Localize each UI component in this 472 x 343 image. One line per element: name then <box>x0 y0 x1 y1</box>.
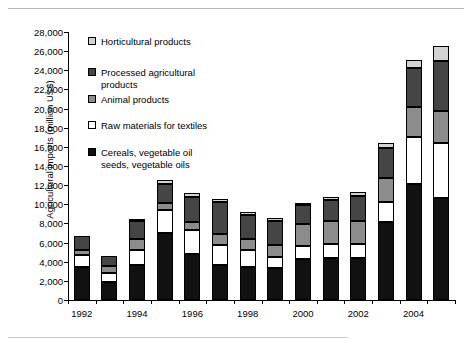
y-tick-mark <box>64 281 68 282</box>
bar-segment <box>323 244 339 258</box>
y-tick-mark <box>64 89 68 90</box>
x-tick-mark <box>206 300 207 304</box>
y-tick-mark <box>64 204 68 205</box>
x-tick-mark <box>234 300 235 304</box>
legend-label: Processed agricultural products <box>101 67 195 90</box>
bar-segment <box>129 239 145 250</box>
bar-segment <box>433 111 449 144</box>
bar-segment <box>378 222 394 300</box>
x-tick-label: 2002 <box>348 308 369 319</box>
bar-segment <box>406 60 422 69</box>
bar-segment <box>323 200 339 221</box>
x-tick-label: 2000 <box>292 308 313 319</box>
bar-segment <box>295 224 311 246</box>
legend-item[interactable]: Horticultural products <box>88 36 191 48</box>
bar-segment <box>378 202 394 221</box>
bar-segment <box>267 257 283 268</box>
legend-item[interactable]: Cereals, vegetable oil seeds, vegetable … <box>88 147 192 170</box>
bar-segment <box>101 273 117 282</box>
bar-2003 <box>378 143 394 300</box>
bar-segment <box>129 221 145 239</box>
bar-segment <box>240 215 256 239</box>
bar-2002 <box>350 192 366 300</box>
bar-1997 <box>212 199 228 300</box>
bar-segment <box>267 268 283 300</box>
bar-segment <box>323 221 339 244</box>
legend-label: Raw materials for textiles <box>101 120 207 132</box>
legend-swatch-icon <box>88 68 96 76</box>
y-tick-mark <box>64 185 68 186</box>
bar-segment <box>212 245 228 264</box>
bar-segment <box>433 46 449 60</box>
x-tick-label: 1994 <box>127 308 148 319</box>
y-tick-mark <box>64 223 68 224</box>
bar-segment <box>240 212 256 215</box>
bar-segment <box>378 148 394 179</box>
bar-1993 <box>101 256 117 300</box>
x-tick-mark <box>96 300 97 304</box>
legend-item[interactable]: Processed agricultural products <box>88 67 195 90</box>
y-tick-label: 14,000 <box>9 161 68 172</box>
y-tick-label: 28,000 <box>9 27 68 38</box>
y-tick-mark <box>64 109 68 110</box>
y-tick-mark <box>64 147 68 148</box>
x-tick-label: 1998 <box>237 308 258 319</box>
bar-segment <box>295 205 311 224</box>
bar-segment <box>240 267 256 301</box>
bar-segment <box>240 250 256 266</box>
y-tick-label: 16,000 <box>9 141 68 152</box>
bar-segment <box>129 219 145 221</box>
bar-segment <box>267 221 283 246</box>
bar-segment <box>74 255 90 267</box>
bar-segment <box>295 259 311 300</box>
y-tick-mark <box>64 32 68 33</box>
y-tick-mark <box>64 128 68 129</box>
bar-segment <box>184 193 200 197</box>
legend-swatch-icon <box>88 95 96 103</box>
bar-segment <box>240 239 256 250</box>
y-tick-label: 4,000 <box>9 256 68 267</box>
bar-segment <box>184 222 200 231</box>
bar-segment <box>295 203 311 205</box>
legend-label: Horticultural products <box>101 36 191 48</box>
y-tick-mark <box>64 262 68 263</box>
bar-segment <box>433 61 449 111</box>
bar-segment <box>184 197 200 222</box>
y-tick-mark <box>64 70 68 71</box>
bar-segment <box>74 250 90 255</box>
bar-segment <box>157 184 173 203</box>
bar-segment <box>74 267 90 300</box>
y-tick-label: 24,000 <box>9 65 68 76</box>
x-tick-mark <box>400 300 401 304</box>
bar-segment <box>350 196 366 221</box>
top-divider <box>8 8 464 9</box>
bar-segment <box>212 199 228 203</box>
y-tick-label: 6,000 <box>9 237 68 248</box>
bar-segment <box>157 210 173 233</box>
x-tick-mark <box>427 300 428 304</box>
bar-segment <box>433 143 449 198</box>
bar-segment <box>350 221 366 244</box>
y-tick-mark <box>64 166 68 167</box>
x-tick-mark <box>68 300 69 304</box>
bar-2000 <box>295 204 311 300</box>
bar-segment <box>157 180 173 184</box>
legend-item[interactable]: Animal products <box>88 94 169 106</box>
x-tick-mark <box>262 300 263 304</box>
bar-1996 <box>184 193 200 300</box>
x-tick-mark <box>372 300 373 304</box>
bar-1995 <box>157 180 173 300</box>
bar-segment <box>323 258 339 300</box>
bar-2001 <box>323 197 339 300</box>
bar-1992 <box>74 236 90 300</box>
bar-1998 <box>240 212 256 300</box>
x-tick-label: 1992 <box>71 308 92 319</box>
legend-item[interactable]: Raw materials for textiles <box>88 120 207 132</box>
y-tick-label: 10,000 <box>9 199 68 210</box>
bar-segment <box>184 254 200 300</box>
bar-1994 <box>129 219 145 300</box>
bar-1999 <box>267 218 283 300</box>
bar-segment <box>101 266 117 274</box>
bar-segment <box>350 244 366 258</box>
bar-segment <box>406 68 422 106</box>
